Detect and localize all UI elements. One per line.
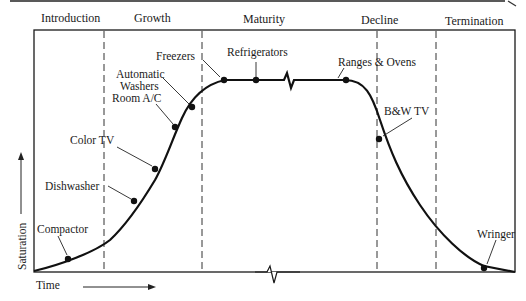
label-automatic-line2: Washers <box>120 80 159 92</box>
stage-decline: Decline <box>361 13 398 27</box>
x-axis-label: Time <box>36 279 60 291</box>
label-color-tv: Color TV <box>70 134 115 146</box>
point-automatic-washers <box>189 104 195 110</box>
label-dishwasher: Dishwasher <box>45 180 99 192</box>
label-ranges-ovens: Ranges & Ovens <box>338 56 416 69</box>
label-wringer: Wringer <box>477 228 515 241</box>
y-axis-label: Saturation <box>16 222 28 270</box>
product-life-cycle-diagram: Introduction Growth Maturity Decline Ter… <box>0 0 526 301</box>
point-color-tv <box>152 166 158 172</box>
point-freezers <box>221 77 227 83</box>
point-ranges-ovens <box>343 77 349 83</box>
leader-dishwasher <box>108 186 131 199</box>
label-compactor: Compactor <box>37 223 88 236</box>
leader-color-tv <box>117 147 152 166</box>
stage-introduction: Introduction <box>41 11 100 25</box>
leader-room-ac <box>156 104 173 124</box>
label-refrigerators: Refrigerators <box>227 46 288 59</box>
leader-compactor <box>58 236 67 255</box>
stage-growth: Growth <box>134 11 171 25</box>
leader-bw-tv <box>383 118 412 136</box>
life-cycle-curve <box>34 73 515 272</box>
x-axis-break <box>255 266 300 283</box>
stage-termination: Termination <box>445 14 503 28</box>
label-room-ac: Room A/C <box>112 92 162 104</box>
leader-ranges-ovens <box>338 68 344 78</box>
point-refrigerators <box>253 77 259 83</box>
x-axis-arrow-head <box>148 284 156 290</box>
leader-automatic-washers <box>163 78 189 104</box>
y-axis-arrow-head <box>18 152 24 160</box>
point-bw-tv <box>376 136 382 142</box>
corner-mark <box>508 1 516 6</box>
leader-freezers <box>203 60 220 77</box>
stage-maturity: Maturity <box>243 12 285 26</box>
label-freezers: Freezers <box>156 50 195 62</box>
label-automatic-line1: Automatic <box>116 68 165 80</box>
point-room-ac <box>172 124 178 130</box>
point-compactor <box>65 256 71 262</box>
label-bw-tv: B&W TV <box>384 105 430 117</box>
point-dishwasher <box>131 198 137 204</box>
point-wringer <box>481 265 487 271</box>
leader-wringer <box>487 240 496 264</box>
